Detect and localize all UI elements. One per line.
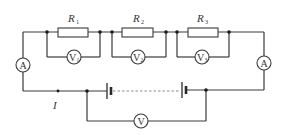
resistor-r1-section: R 1 V 1: [45, 12, 102, 64]
battery-pack: [107, 82, 186, 99]
resistor-r1-label: R: [67, 12, 75, 24]
resistor-r3-label: R: [196, 12, 204, 24]
resistor-r2: [122, 28, 153, 37]
resistor-r2-section: R 2 V 2: [110, 12, 168, 64]
junction-dot: [110, 30, 114, 34]
junction-dot: [98, 30, 102, 34]
resistor-r2-sub: 2: [141, 19, 144, 25]
resistor-r3: [188, 28, 218, 37]
junction-dot: [227, 30, 231, 34]
junction-dot: [85, 89, 89, 93]
ammeter-left-label: A: [19, 60, 27, 71]
voltmeter-v1-sub: 1: [77, 57, 80, 63]
resistor-r3-sub: 3: [205, 19, 208, 25]
resistor-r1: [58, 28, 88, 37]
ammeter-left: A: [16, 58, 30, 72]
current-point-dot: [57, 90, 60, 93]
resistor-r2-label: R: [132, 12, 140, 24]
ammeter-right: A: [257, 56, 271, 70]
voltmeter-v-label: V: [137, 116, 145, 127]
ammeter-right-label: A: [260, 58, 268, 69]
junction-dot: [175, 30, 179, 34]
junction-dot: [45, 30, 49, 34]
resistor-r1-sub: 1: [76, 19, 79, 25]
junction-dot: [164, 30, 168, 34]
junction-dot: [204, 88, 208, 92]
resistor-r3-section: R 3 V 3: [175, 12, 231, 64]
voltmeter-v3-sub: 3: [205, 57, 208, 63]
voltmeter-v: V: [134, 114, 148, 128]
voltmeter-v2-sub: 2: [141, 57, 144, 63]
current-label-i: I: [52, 99, 58, 111]
circuit-diagram: V I R 1 V 1 R 2: [0, 0, 284, 135]
